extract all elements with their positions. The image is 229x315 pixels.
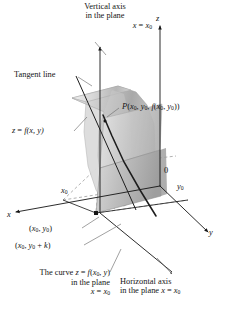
callout-horizontal-axis-line2: in the plane x = x0 — [120, 286, 226, 296]
callout-surface-equation: z = f(x, y) — [12, 126, 44, 135]
axis-label-y: y — [209, 228, 213, 237]
axis-label-x: x — [7, 210, 11, 219]
callout-curve-line2: in the plane — [6, 278, 110, 287]
callout-vertical-axis-line3: x = x0 — [58, 21, 152, 31]
point-P-marker — [104, 120, 107, 123]
callout-horizontal-axis-line1: Horizontal axis — [120, 277, 226, 286]
callout-point-P: P(x0, y0, f(x0, y0)) — [122, 102, 180, 112]
callout-vertical-axis: Vertical axis in the plane x = x0 — [58, 2, 152, 30]
leader-xy — [82, 217, 99, 228]
callout-curve-line3: x = x0 — [6, 287, 110, 297]
leader-horizontal — [157, 258, 172, 274]
leader-curve — [110, 249, 121, 272]
callout-vertical-axis-line2: in the plane — [58, 11, 152, 20]
figure-canvas: Vertical axis in the plane x = x0 z Tang… — [0, 0, 229, 315]
callout-vertical-axis-line1: Vertical axis — [58, 2, 152, 11]
callout-tangent-line: Tangent line — [14, 70, 56, 79]
callout-curve: The curve z = f(x0, y) in the plane x = … — [6, 268, 110, 297]
tick-label-y0: y0 — [177, 182, 184, 192]
horizontal-axis-in-plane — [100, 213, 172, 272]
callout-horizontal-axis: Horizontal axis in the plane x = x0 — [120, 277, 226, 296]
y-axis — [160, 186, 208, 232]
axis-label-z: z — [156, 14, 159, 23]
leader-xyk — [84, 224, 121, 245]
cutting-plane — [96, 104, 167, 213]
point-x0y0-marker — [94, 211, 98, 215]
axis-label-origin: 0 — [164, 166, 168, 175]
leader-vertical-axis — [95, 42, 106, 55]
callout-curve-line1: The curve z = f(x0, y) — [6, 268, 110, 278]
callout-point-x0y0: (x0, y0) — [29, 224, 52, 234]
tick-label-x0: x0 — [61, 186, 68, 196]
callout-point-x0y0k: (x0, y0 + k) — [15, 241, 51, 251]
